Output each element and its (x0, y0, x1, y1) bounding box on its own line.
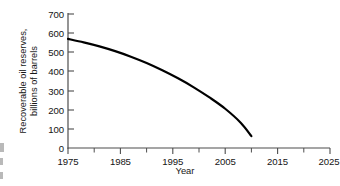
x-axis-title-text: Year (176, 165, 195, 176)
x-axis-title: Year (0, 165, 340, 176)
x-tick-label-group: 1975 1985 1995 2005 2015 2025 (0, 0, 340, 186)
chart-figure: Recoverable oil reserves, billions of ba… (0, 0, 340, 186)
